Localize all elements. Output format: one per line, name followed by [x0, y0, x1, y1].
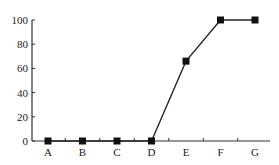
y-axis: 020406080100 [12, 14, 36, 147]
x-tick-label: E [183, 146, 190, 158]
x-tick-label: C [113, 146, 120, 158]
data-point-marker [217, 17, 224, 24]
data-point-marker [183, 58, 190, 65]
x-tick-label: B [79, 146, 86, 158]
x-tick-label: G [251, 146, 259, 158]
data-series [45, 17, 259, 145]
y-tick-label: 40 [17, 87, 29, 99]
data-point-marker [252, 17, 259, 24]
series-line [48, 20, 255, 141]
data-point-marker [79, 138, 86, 145]
x-tick-label: F [217, 146, 223, 158]
line-chart: 020406080100 ABCDEFG [0, 0, 279, 165]
y-tick-label: 20 [17, 111, 29, 123]
x-tick-label: A [44, 146, 52, 158]
data-point-marker [148, 138, 155, 145]
y-tick-label: 60 [17, 62, 29, 74]
y-tick-label: 100 [12, 14, 29, 26]
data-point-marker [45, 138, 52, 145]
x-tick-label: D [148, 146, 156, 158]
data-point-marker [114, 138, 121, 145]
y-tick-label: 0 [23, 135, 29, 147]
y-tick-label: 80 [17, 38, 29, 50]
